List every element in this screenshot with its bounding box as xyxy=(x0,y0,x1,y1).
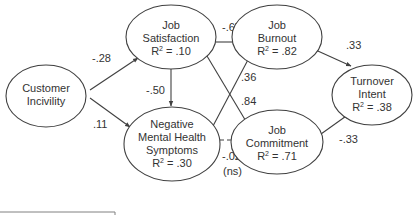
r2-value: R2 = .82 xyxy=(257,45,297,57)
node-label-line: Customer xyxy=(22,82,70,94)
r2-value: R2 = .71 xyxy=(257,150,297,162)
edge-label-commitment-turnover: -.33 xyxy=(339,133,358,145)
node-job-satisfaction: Job Satisfaction R2 = .10 xyxy=(126,5,216,69)
r2-value: R2 = .38 xyxy=(352,101,392,113)
node-label-line: Turnover xyxy=(350,75,394,87)
edge-label-burnout-turnover: .33 xyxy=(346,39,361,51)
r2-value: R2 = .30 xyxy=(152,157,192,169)
edge-label-incivility-mental-health: .11 xyxy=(93,118,107,130)
node-label-line: Mental Health xyxy=(138,131,206,143)
path-diagram: -.28 .11 -.50 -.67 .84 .36 -.02 (ns) .33… xyxy=(0,0,419,215)
node-label-line: Intent xyxy=(358,88,386,100)
node-label-line: Burnout xyxy=(258,32,297,44)
node-label-line: Job xyxy=(268,19,286,31)
node-customer-incivility: Customer Incivility xyxy=(6,65,86,127)
node-label-line: Job xyxy=(162,19,180,31)
node-label-line: Commitment xyxy=(246,137,308,149)
node-negative-mental-health: Negative Mental Health Symptoms R2 = .30 xyxy=(124,107,220,181)
edge-label-satisfaction-commitment: .84 xyxy=(241,95,256,107)
node-job-commitment: Job Commitment R2 = .71 xyxy=(231,110,323,174)
edge-label-satisfaction-mental-health: -.50 xyxy=(146,84,165,96)
edge-label-ns: (ns) xyxy=(223,165,242,177)
edge-satisfaction-to-commitment xyxy=(207,56,250,128)
r2-value: R2 = .10 xyxy=(151,45,191,57)
node-turnover-intent: Turnover Intent R2 = .38 xyxy=(332,65,412,125)
edge-mental-health-to-burnout xyxy=(213,56,250,126)
node-job-burnout: Job Burnout R2 = .82 xyxy=(232,5,322,69)
edge-label-mental-health-burnout: .36 xyxy=(241,71,256,83)
node-label-line: Satisfaction xyxy=(143,32,200,44)
legend-box-edge xyxy=(0,212,115,215)
node-label-line: Symptoms xyxy=(146,144,198,156)
node-label-line: Job xyxy=(268,124,286,136)
edge-label-incivility-satisfaction: -.28 xyxy=(92,52,111,64)
node-label-line: Incivility xyxy=(27,95,66,107)
node-label-line: Negative xyxy=(150,118,193,130)
